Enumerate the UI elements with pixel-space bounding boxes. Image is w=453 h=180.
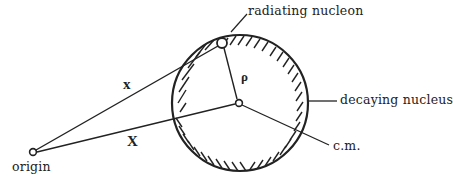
label-cm: c.m. (333, 140, 361, 153)
vector-rho-line (224, 48, 237, 99)
label-decaying-nucleus: decaying nucleus (340, 94, 453, 107)
label-rho: ρ (241, 70, 248, 83)
radiating-nucleon-point (217, 38, 227, 48)
label-vector-x: x (123, 77, 131, 92)
label-radiating-nucleon: radiating nucleon (248, 5, 363, 18)
nucleus-decay-diagram: radiating nucleon decaying nucleus c.m. … (0, 0, 453, 180)
origin-point (30, 149, 37, 156)
leader-cm (242, 105, 329, 145)
leader-radiating-nucleon (231, 14, 247, 32)
cm-point (236, 100, 243, 107)
label-origin: origin (12, 161, 51, 174)
label-vector-X: X (127, 134, 138, 149)
diagram-canvas (0, 0, 453, 180)
